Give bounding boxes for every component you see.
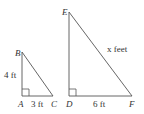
vertex-label-d: D <box>65 99 73 109</box>
similar-triangles-diagram: B 4 ft A 3 ft C E x feet D 6 ft F <box>0 0 144 114</box>
triangle-abc: B 4 ft A 3 ft C <box>4 48 58 109</box>
side-label-df: 6 ft <box>93 99 106 109</box>
right-angle-marker-a <box>22 89 29 96</box>
triangle-def-edges <box>69 12 132 96</box>
side-label-ef: x feet <box>107 44 128 54</box>
triangle-def: E x feet D 6 ft F <box>61 7 135 109</box>
vertex-label-a: A <box>17 99 24 109</box>
vertex-label-e: E <box>61 7 68 17</box>
vertex-label-f: F <box>128 99 135 109</box>
right-angle-marker-d <box>69 89 76 96</box>
side-label-ac: 3 ft <box>31 99 44 109</box>
vertex-label-c: C <box>51 99 58 109</box>
side-label-ab: 4 ft <box>4 70 17 80</box>
vertex-label-b: B <box>15 48 21 58</box>
